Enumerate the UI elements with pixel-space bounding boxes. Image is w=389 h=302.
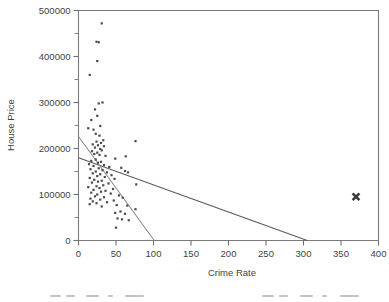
data-point bbox=[89, 74, 91, 76]
data-point bbox=[116, 217, 118, 219]
data-point bbox=[93, 153, 95, 155]
data-point bbox=[97, 144, 99, 146]
data-point bbox=[101, 205, 103, 207]
data-point bbox=[122, 197, 124, 199]
data-point bbox=[94, 108, 96, 110]
data-point bbox=[90, 192, 92, 194]
data-point bbox=[118, 194, 120, 196]
plot-canvas: 0100000200000300000400000500000 05010015… bbox=[0, 0, 389, 302]
x-tick-label: 400 bbox=[371, 248, 387, 259]
data-point bbox=[92, 143, 94, 145]
data-point bbox=[87, 127, 89, 129]
y-axis-title: House Price bbox=[5, 99, 16, 151]
x-tick-label: 150 bbox=[183, 248, 199, 259]
data-point bbox=[102, 184, 104, 186]
data-point bbox=[92, 172, 94, 174]
data-point bbox=[100, 191, 102, 193]
data-point bbox=[101, 169, 103, 171]
data-point bbox=[93, 179, 95, 181]
axis-frame bbox=[79, 11, 379, 241]
data-point bbox=[116, 204, 118, 206]
data-point bbox=[121, 218, 123, 220]
data-point bbox=[110, 174, 112, 176]
data-point bbox=[128, 219, 130, 221]
data-point bbox=[120, 167, 122, 169]
x-axis-tick-labels: 050100150200250300350400 bbox=[76, 248, 387, 259]
data-point bbox=[95, 185, 97, 187]
data-point bbox=[113, 199, 115, 201]
data-point bbox=[89, 198, 91, 200]
data-point bbox=[98, 135, 100, 137]
data-point bbox=[98, 102, 100, 104]
data-point bbox=[97, 181, 99, 183]
y-tick-label: 500000 bbox=[39, 5, 71, 16]
data-point bbox=[103, 196, 105, 198]
data-point bbox=[108, 166, 110, 168]
data-point bbox=[89, 177, 91, 179]
data-point bbox=[124, 170, 126, 172]
data-point bbox=[94, 146, 96, 148]
data-point bbox=[97, 162, 99, 164]
x-tick-label: 350 bbox=[333, 248, 349, 259]
outlier-x-marker bbox=[353, 193, 360, 200]
data-point bbox=[104, 190, 106, 192]
data-point bbox=[119, 210, 121, 212]
data-point bbox=[92, 165, 94, 167]
data-point bbox=[115, 227, 117, 229]
scatter-data-points bbox=[87, 22, 137, 228]
data-point bbox=[92, 200, 94, 202]
data-point bbox=[106, 201, 108, 203]
x-tick-label: 250 bbox=[258, 248, 274, 259]
data-point bbox=[100, 161, 102, 163]
y-axis-ticks bbox=[74, 11, 79, 241]
data-point bbox=[106, 171, 108, 173]
y-tick-label: 0 bbox=[65, 235, 70, 246]
data-point bbox=[112, 188, 114, 190]
data-point bbox=[87, 186, 89, 188]
data-point bbox=[90, 119, 92, 121]
data-point bbox=[102, 139, 104, 141]
x-tick-label: 100 bbox=[146, 248, 162, 259]
data-point bbox=[101, 180, 103, 182]
data-point bbox=[100, 142, 102, 144]
y-tick-label: 200000 bbox=[39, 143, 71, 154]
data-point bbox=[91, 181, 93, 183]
regression-line-fit-with-outlier bbox=[79, 158, 308, 241]
data-point bbox=[113, 178, 115, 180]
x-tick-label: 0 bbox=[76, 248, 81, 259]
data-point bbox=[98, 187, 100, 189]
data-point bbox=[126, 204, 128, 206]
data-point bbox=[101, 22, 103, 24]
data-point bbox=[95, 202, 97, 204]
data-point bbox=[89, 168, 91, 170]
data-point bbox=[95, 41, 97, 43]
data-point bbox=[103, 164, 105, 166]
data-point bbox=[90, 160, 92, 162]
data-point bbox=[103, 145, 105, 147]
data-point bbox=[114, 158, 116, 160]
y-tick-label: 300000 bbox=[39, 97, 71, 108]
data-point bbox=[110, 192, 112, 194]
regression-line-fit-without-outlier bbox=[79, 137, 155, 241]
data-point bbox=[96, 115, 98, 117]
y-tick-label: 100000 bbox=[39, 189, 71, 200]
data-point bbox=[99, 125, 101, 127]
x-tick-label: 200 bbox=[221, 248, 237, 259]
data-point bbox=[96, 60, 98, 62]
x-axis-title: Crime Rate bbox=[208, 267, 256, 278]
data-point bbox=[124, 213, 126, 215]
data-point bbox=[99, 173, 101, 175]
data-point bbox=[104, 155, 106, 157]
y-axis-tick-labels: 0100000200000300000400000500000 bbox=[39, 5, 71, 246]
data-point bbox=[98, 154, 100, 156]
data-point bbox=[101, 101, 103, 103]
data-point bbox=[89, 203, 91, 205]
data-point bbox=[96, 175, 98, 177]
plot-border bbox=[79, 11, 379, 241]
data-point bbox=[134, 140, 136, 142]
x-axis-ticks bbox=[79, 241, 379, 246]
data-point bbox=[107, 182, 109, 184]
data-point bbox=[88, 163, 90, 165]
data-point bbox=[114, 212, 116, 214]
y-tick-label: 400000 bbox=[39, 51, 71, 62]
